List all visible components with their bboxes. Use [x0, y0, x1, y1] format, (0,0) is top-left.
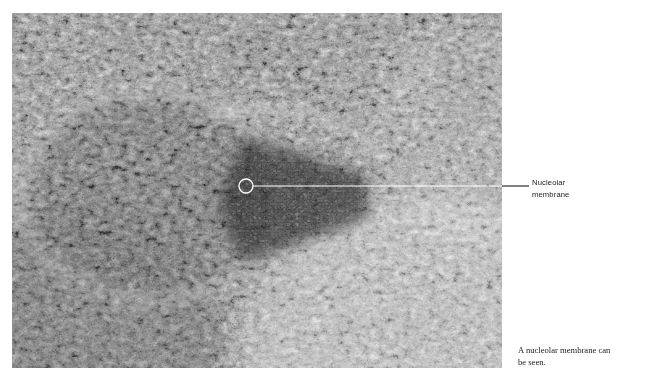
callout-label-line-1: Nucleolar — [532, 177, 640, 189]
figure-caption-line-1: A nucleolar membrane can — [518, 345, 640, 357]
callout-label-line-2: membrane — [532, 189, 640, 201]
figure-caption: A nucleolar membrane can be seen. — [518, 345, 640, 369]
callout-label-nucleolar-membrane: Nucleolar membrane — [532, 177, 640, 200]
contrast-veil — [12, 13, 502, 368]
micrograph-canvas — [12, 13, 502, 368]
electron-micrograph-image — [12, 13, 502, 368]
figure-caption-line-2: be seen. — [518, 357, 640, 369]
figure-page: Nucleolar membrane A nucleolar membrane … — [0, 0, 645, 376]
